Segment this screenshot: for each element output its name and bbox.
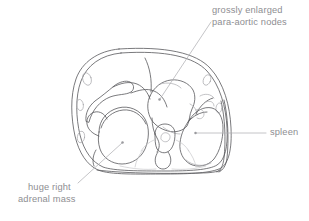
leader-dot-para-aortic [158,98,161,101]
para-aortic-nodal-mass [148,80,195,132]
leader-dot-adrenal [121,141,124,144]
spinal-canal [161,133,170,142]
annotation-label-adrenal-line-1: huge right [18,182,76,194]
bowel-loop-detail-3 [200,94,214,98]
flank-marking-oval-3 [76,131,85,144]
leader-line-para-aortic [160,22,211,99]
adrenal-mass-lower-edge [93,150,96,166]
body-outline-outer [72,48,231,174]
flank-marking-oval-1 [81,72,93,87]
leader-dot-spleen [194,132,197,135]
spleen-lower-edge [186,160,211,165]
annotation-label-adrenal-mass: huge right adrenal mass [18,182,76,205]
annotation-label-adrenal-line-2: adrenal mass [18,194,76,206]
liver-upper-edge [113,83,150,99]
annotation-label-para-aortic-line-1: grossly enlarged [212,5,287,17]
paraspinal-line-right [172,166,206,169]
anterior-fat-stripe [145,58,151,92]
annotation-label-spleen-line-1: spleen [270,127,298,139]
nodal-mass-inferior-extension [152,118,159,152]
annotation-label-para-aortic-line-2: para-aortic nodes [212,17,287,29]
liver-contour [86,81,134,122]
flank-marking-oval-5 [215,103,222,114]
annotation-label-spleen: spleen [270,127,298,139]
spleen-contour [180,108,223,166]
annotation-label-para-aortic-nodes: grossly enlarged para-aortic nodes [212,5,287,28]
flank-marking-oval-2 [76,99,84,111]
posterior-wall-line [97,170,221,173]
body-outline-inner [77,52,227,171]
spinous-process [155,152,171,169]
medical-illustration-figure: grossly enlarged para-aortic nodes splee… [0,0,309,221]
bowel-loop-detail-2 [206,101,214,106]
spleen-superior-extension [196,98,213,114]
psoas-left [135,150,143,167]
paraspinal-line-left [120,166,156,169]
adrenal-mass-medial-lobule [87,112,107,136]
transverse-process-right [176,140,189,151]
right-adrenal-mass [98,107,148,164]
